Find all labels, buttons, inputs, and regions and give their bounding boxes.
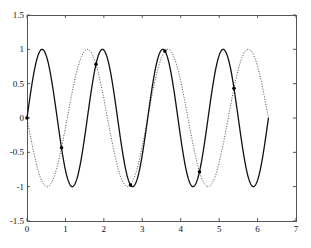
- x-axis-tick-labels: 01234567: [25, 224, 299, 234]
- line-chart: 01234567 1.510.50-0.5-1-1.5: [0, 0, 311, 248]
- intersection-marker: [129, 183, 133, 187]
- y-tick-label: 0.5: [13, 79, 25, 89]
- y-tick-label: -0.5: [10, 147, 25, 157]
- x-tick-label: 1: [63, 224, 68, 234]
- series-sin-4x-solid: [27, 49, 268, 186]
- x-tick-label: 2: [102, 224, 107, 234]
- x-tick-label: 6: [255, 224, 260, 234]
- x-tick-label: 3: [140, 224, 145, 234]
- x-tick-label: 7: [294, 224, 299, 234]
- x-tick-label: 4: [178, 224, 183, 234]
- intersection-marker: [163, 49, 167, 53]
- y-tick-label: -1.5: [10, 216, 25, 226]
- y-axis-tick-labels: 1.510.50-0.5-1-1.5: [10, 10, 25, 226]
- intersection-marker: [198, 170, 202, 174]
- plot-frame: [28, 16, 297, 222]
- y-tick-label: 0: [20, 113, 25, 123]
- intersection-marker: [60, 146, 64, 150]
- x-tick-label: 5: [217, 224, 222, 234]
- y-tick-label: -1: [17, 182, 25, 192]
- y-tick-label: 1.5: [13, 10, 25, 20]
- x-tick-label: 0: [25, 224, 30, 234]
- intersection-marker: [94, 63, 98, 67]
- intersection-marker: [25, 116, 29, 120]
- y-tick-label: 1: [20, 44, 25, 54]
- intersection-marker: [232, 86, 236, 90]
